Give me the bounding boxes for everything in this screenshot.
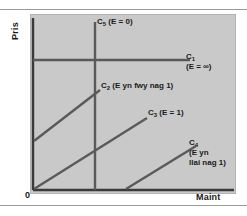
curve-label-c2-subscript: 2 xyxy=(107,85,110,91)
curve-label-c2-note: (E yn fwy nag 1) xyxy=(112,81,173,90)
plot-svg xyxy=(0,0,247,216)
curve-label-c4-name: C xyxy=(189,138,195,147)
x-axis-title: Maint xyxy=(196,192,221,202)
curve-label-c4-note-line1: (E yn xyxy=(189,148,226,158)
curve-label-c2: C2 (E yn fwy nag 1) xyxy=(101,81,173,91)
curve-c2 xyxy=(34,90,100,141)
curve-label-c1-name: C xyxy=(186,52,192,61)
curve-label-c5-note: (E = 0) xyxy=(108,17,132,26)
curve-label-c4-subscript: 4 xyxy=(195,142,198,148)
curve-label-c3-name: C xyxy=(148,108,154,117)
figure-container: Pris Maint 0 C5 (E = 0) C1 (E = ∞) C2 (E… xyxy=(0,0,247,216)
curve-label-c3: C3 (E = 1) xyxy=(148,108,184,118)
curve-label-c2-name: C xyxy=(101,81,107,90)
y-axis-title: Pris xyxy=(10,11,20,51)
curve-label-c3-note: (E = 1) xyxy=(159,108,183,117)
curve-label-c4-note-line2: llai nag 1) xyxy=(189,158,226,168)
curve-label-c5: C5 (E = 0) xyxy=(97,17,133,27)
curve-label-c1-note: (E = ∞) xyxy=(186,62,211,72)
curve-c4 xyxy=(126,146,196,189)
curve-label-c5-subscript: 5 xyxy=(103,21,106,27)
curve-label-c4: C4 (E yn llai nag 1) xyxy=(189,138,226,168)
curve-label-c3-subscript: 3 xyxy=(154,112,157,118)
origin-label: 0 xyxy=(25,190,30,200)
curve-label-c1-subscript: 1 xyxy=(192,56,195,62)
curve-label-c1: C1 (E = ∞) xyxy=(186,52,211,72)
curve-label-c5-name: C xyxy=(97,17,103,26)
